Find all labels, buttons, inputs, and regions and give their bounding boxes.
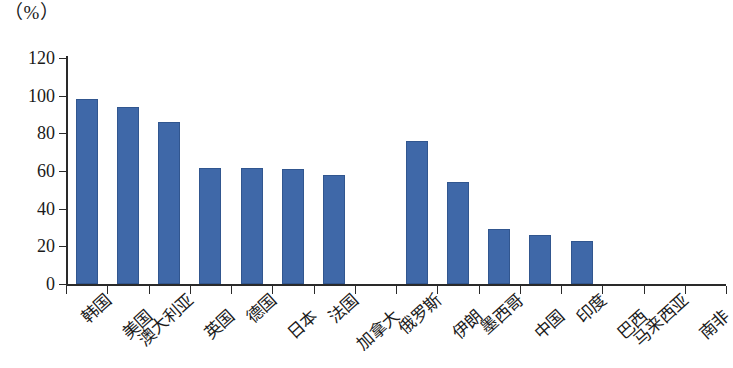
bar — [447, 182, 469, 284]
y-axis-tick-label-wrap: 80 — [0, 124, 55, 142]
y-axis-tick-label-wrap: 60 — [0, 162, 55, 180]
y-axis-tick-label: 120 — [9, 49, 55, 67]
y-axis-tick — [59, 96, 67, 97]
y-axis-tick — [59, 284, 67, 285]
bar — [76, 99, 98, 284]
y-axis-tick-label: 60 — [9, 162, 55, 180]
y-axis-tick-label-wrap: 40 — [0, 200, 55, 218]
plot-area: 020406080100120 — [0, 0, 733, 300]
y-axis-tick-label-wrap: 120 — [0, 49, 55, 67]
y-axis-tick — [59, 58, 67, 59]
bar — [158, 122, 180, 284]
bar — [323, 175, 345, 284]
bar — [529, 235, 551, 284]
y-axis-tick — [59, 209, 67, 210]
y-axis-tick-label-wrap: 100 — [0, 87, 55, 105]
y-axis-tick-label: 20 — [9, 237, 55, 255]
y-axis-tick-label: 40 — [9, 200, 55, 218]
bar — [406, 141, 428, 284]
bar-chart: （%） 020406080100120 韩国美国澳大利亚英国德国日本法国加拿大俄… — [0, 0, 733, 368]
bar — [282, 169, 304, 284]
y-axis-tick — [59, 171, 67, 172]
bar — [488, 229, 510, 284]
bar — [241, 168, 263, 284]
bar — [117, 107, 139, 284]
y-axis-tick-label-wrap: 20 — [0, 237, 55, 255]
bar — [571, 241, 593, 284]
y-axis-tick-label: 80 — [9, 124, 55, 142]
y-axis-tick — [59, 246, 67, 247]
y-axis-tick — [59, 133, 67, 134]
y-axis-tick-label: 100 — [9, 87, 55, 105]
x-axis-labels: 韩国美国澳大利亚英国德国日本法国加拿大俄罗斯伊朗墨西哥中国印度巴西马来西亚南非 — [0, 288, 733, 368]
bar — [199, 168, 221, 284]
